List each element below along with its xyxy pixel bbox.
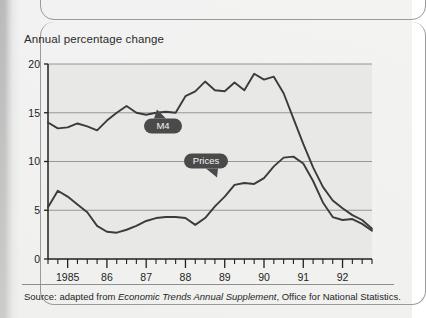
x-tick-label: 89 [219, 271, 231, 283]
data-series-group [48, 74, 372, 233]
y-tick-label: 5 [34, 204, 40, 216]
x-tick-label: 86 [101, 271, 113, 283]
callout-prices-label: Prices [193, 155, 220, 166]
y-axis-ticks-group: 05101520 [28, 58, 48, 265]
x-axis-ticks-group: 198586878889909192 [48, 259, 372, 283]
y-tick-label: 10 [28, 155, 40, 167]
x-tick-label: 91 [297, 271, 309, 283]
x-tick-label: 92 [337, 271, 349, 283]
x-tick-label: 87 [140, 271, 152, 283]
y-tick-label: 0 [34, 253, 40, 265]
source-publication: Economic Trends Annual Supplement [118, 291, 276, 302]
source-prefix: Source: adapted from [24, 291, 118, 302]
series-line-m4 [48, 74, 372, 229]
x-tick-label: 88 [180, 271, 192, 283]
y-tick-label: 15 [28, 107, 40, 119]
caption-divider [22, 284, 394, 285]
x-tick-label: 1985 [56, 271, 80, 283]
y-tick-label: 20 [28, 58, 40, 70]
x-tick-label: 90 [258, 271, 270, 283]
series-callouts-group: M4Prices [144, 110, 228, 178]
source-caption: Source: adapted from Economic Trends Ann… [24, 291, 401, 302]
callout-prices: Prices [184, 154, 228, 178]
source-suffix: , Office for National Statistics. [276, 291, 400, 302]
callout-m4-label: M4 [156, 120, 169, 131]
